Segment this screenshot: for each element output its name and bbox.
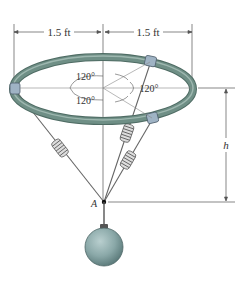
spring-lower-right [119, 150, 137, 171]
collar-left [10, 83, 20, 94]
left-span-label: 1.5 ft [47, 26, 70, 38]
spring-upper-right [119, 123, 134, 143]
height-dimension [108, 88, 235, 202]
collar-upper-right [144, 55, 157, 67]
right-span-label: 1.5 ft [136, 26, 159, 38]
angle-label-top: 120° [76, 71, 95, 82]
hanging-ball [85, 228, 123, 266]
point-a-label: A [90, 198, 98, 209]
angle-label-bottom: 120° [76, 95, 95, 106]
angle-label-right: 120° [140, 83, 159, 94]
collar-lower-right [146, 112, 159, 124]
height-label: h [223, 139, 229, 151]
diagram-canvas: 1.5 ft 1.5 ft [0, 0, 239, 282]
